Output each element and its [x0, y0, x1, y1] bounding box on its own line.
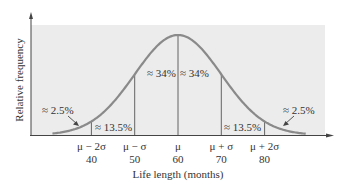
tick-value-label: 80	[259, 153, 271, 165]
x-axis-arrow-icon	[326, 134, 334, 138]
tick-symbol-label: μ	[175, 140, 181, 152]
tick-symbol-label: μ + 2σ	[250, 140, 279, 152]
region-percent-label: ≈ 34%	[147, 67, 176, 79]
normal-distribution-chart: Relative frequency Life length (months) …	[0, 0, 345, 185]
region-percent-label: ≈ 2.5%	[42, 104, 74, 116]
region-percent-label: ≈ 2.5%	[283, 104, 315, 116]
tick-symbol-label: μ − 2σ	[77, 140, 106, 152]
region-percent-label: ≈ 13.5%	[95, 121, 132, 133]
tick-value-label: 70	[216, 153, 228, 165]
y-axis-label: Relative frequency	[13, 38, 25, 122]
region-percent-label: ≈ 34%	[180, 67, 209, 79]
tick-value-label: 40	[86, 153, 98, 165]
tick-value-label: 50	[129, 153, 141, 165]
tick-symbol-label: μ + σ	[210, 140, 234, 152]
tick-symbol-label: μ − σ	[123, 140, 147, 152]
tick-value-label: 60	[173, 153, 185, 165]
x-axis-label: Life length (months)	[132, 168, 223, 181]
region-percent-label: ≈ 13.5%	[224, 121, 261, 133]
y-axis-arrow-icon	[29, 12, 33, 19]
